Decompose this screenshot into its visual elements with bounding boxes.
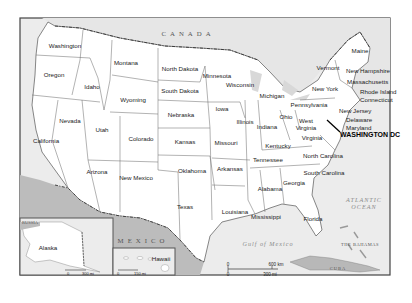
- state-california: California: [33, 137, 59, 144]
- state-oklahoma: Oklahoma: [178, 167, 206, 174]
- state-west-virginia: West Virginia: [294, 117, 318, 131]
- state-south-dakota: South Dakota: [161, 87, 199, 94]
- state-illinois: Illinois: [236, 118, 253, 125]
- state-mississippi: Mississippi: [251, 213, 281, 220]
- state-south-carolina: South Carolina: [304, 169, 345, 176]
- state-montana: Montana: [114, 59, 138, 66]
- label-bahamas: THE BAHAMAS: [340, 242, 380, 247]
- state-tennessee: Tennessee: [253, 156, 283, 163]
- hawaii-label: Hawaii: [152, 255, 171, 262]
- hawaii-scale-zero: 0: [117, 271, 119, 276]
- capital-washington-dc: WASHINGTON DC: [340, 131, 400, 138]
- state-rhode-island: Rhode Island: [360, 88, 396, 95]
- state-kentucky: Kentucky: [265, 142, 290, 149]
- state-utah: Utah: [95, 126, 108, 133]
- label-cuba: CUBA: [330, 266, 347, 271]
- state-new-hampshire: New Hampshire: [346, 67, 390, 74]
- label-atlantic-ocean: ATLANTIC OCEAN: [339, 196, 389, 210]
- scale-km-label: 600 km: [269, 262, 284, 267]
- alaska-scale-zero: 0: [67, 271, 69, 276]
- hawaii-big-island: [161, 265, 169, 272]
- state-nevada: Nevada: [59, 117, 80, 124]
- state-arizona: Arizona: [87, 168, 108, 175]
- state-new-jersey: New Jersey: [339, 107, 371, 114]
- state-north-dakota: North Dakota: [162, 65, 198, 72]
- state-pennsylvania: Pennsylvania: [291, 101, 328, 108]
- state-ohio: Ohio: [279, 113, 292, 120]
- state-arkansas: Arkansas: [217, 165, 243, 172]
- state-maryland: Maryland: [346, 124, 371, 131]
- state-indiana: Indiana: [257, 123, 277, 130]
- state-texas: Texas: [177, 203, 193, 210]
- scale-zero-mi: 0: [227, 272, 230, 277]
- state-new-mexico: New Mexico: [119, 174, 153, 181]
- alaska-label: Alaska: [39, 244, 58, 251]
- state-wisconsin: Wisconsin: [226, 81, 254, 88]
- state-north-carolina: North Carolina: [303, 152, 343, 159]
- label-mexico: MEXICO: [118, 237, 169, 244]
- label-russia: RUSSIA: [22, 220, 38, 225]
- state-virginia: Virginia: [302, 134, 323, 141]
- state-delaware: Delaware: [346, 116, 372, 123]
- state-missouri: Missouri: [214, 139, 237, 146]
- state-alabama: Alabama: [258, 185, 282, 192]
- state-iowa: Iowa: [215, 105, 228, 112]
- state-connecticut: Connecticut: [360, 96, 393, 103]
- state-louisiana: Louisiana: [222, 208, 249, 215]
- state-vermont: Vermont: [316, 64, 339, 71]
- state-minnesota: Minnesota: [203, 72, 232, 79]
- label-gulf-of-mexico: Gulf of Mexico: [242, 240, 293, 247]
- state-michigan: Michigan: [260, 92, 285, 99]
- scale-mi-label: 300 mi: [263, 272, 277, 277]
- hawaii-scale-label: 150 mi: [134, 271, 146, 276]
- state-oregon: Oregon: [44, 71, 65, 78]
- state-wyoming: Wyoming: [120, 96, 146, 103]
- state-washington: Washington: [49, 42, 81, 49]
- state-florida: Florida: [304, 215, 323, 222]
- state-colorado: Colorado: [128, 135, 153, 142]
- state-idaho: Idaho: [84, 83, 99, 90]
- state-massachusetts: Massachusetts: [347, 78, 388, 85]
- state-new-york: New York: [312, 85, 338, 92]
- us-map: CANADA MEXICO CUBA RUSSIA THE BAHAMAS AT…: [0, 0, 412, 303]
- state-kansas: Kansas: [175, 138, 196, 145]
- scale-zero-km: 0: [227, 262, 230, 267]
- alaska-scale-label: 300 mi: [82, 271, 94, 276]
- state-maine: Maine: [352, 47, 369, 54]
- label-canada: CANADA: [161, 30, 214, 37]
- state-georgia: Georgia: [283, 179, 305, 186]
- state-nebraska: Nebraska: [168, 111, 194, 118]
